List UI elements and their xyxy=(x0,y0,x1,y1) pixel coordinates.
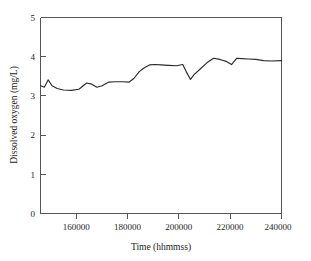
x-axis-tick-labels: 160000 180000 200000 220000 240000 xyxy=(63,222,292,232)
y-tick-label-4: 4 xyxy=(31,52,36,62)
y-tick-label-5: 5 xyxy=(31,13,36,23)
y-axis-title: Dissolved oxygen (mg/L) xyxy=(9,66,20,164)
data-series-dissolved-oxygen xyxy=(41,58,282,90)
x-tick-label-240000: 240000 xyxy=(265,222,293,232)
chart-figure: 0 1 2 3 4 5 160000 180000 200000 220000 … xyxy=(0,0,311,261)
plot-frame xyxy=(41,18,282,214)
x-tick-label-180000: 180000 xyxy=(114,222,142,232)
y-axis-tick-labels: 0 1 2 3 4 5 xyxy=(31,13,36,219)
y-axis-ticks xyxy=(41,18,46,214)
y-tick-label-1: 1 xyxy=(31,170,36,180)
x-axis-title: Time (hhmmss) xyxy=(131,242,191,253)
y-tick-label-0: 0 xyxy=(31,209,36,219)
x-tick-label-220000: 220000 xyxy=(217,222,245,232)
x-tick-label-160000: 160000 xyxy=(63,222,91,232)
x-axis-ticks xyxy=(76,214,281,220)
dissolved-oxygen-line-chart: 0 1 2 3 4 5 160000 180000 200000 220000 … xyxy=(0,0,311,261)
y-tick-label-3: 3 xyxy=(31,91,36,101)
y-tick-label-2: 2 xyxy=(31,130,36,140)
x-tick-label-200000: 200000 xyxy=(165,222,193,232)
